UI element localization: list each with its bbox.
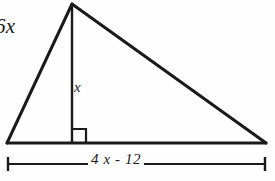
right-angle-icon xyxy=(72,129,86,143)
triangle-right-side xyxy=(72,4,266,143)
geometry-figure: 6x x 4 x - 12 xyxy=(0,0,275,181)
label-left-side: 6x xyxy=(0,16,15,37)
label-base: 4 x - 12 xyxy=(88,152,144,167)
label-altitude: x xyxy=(74,80,81,95)
triangle-left-side xyxy=(7,4,72,143)
